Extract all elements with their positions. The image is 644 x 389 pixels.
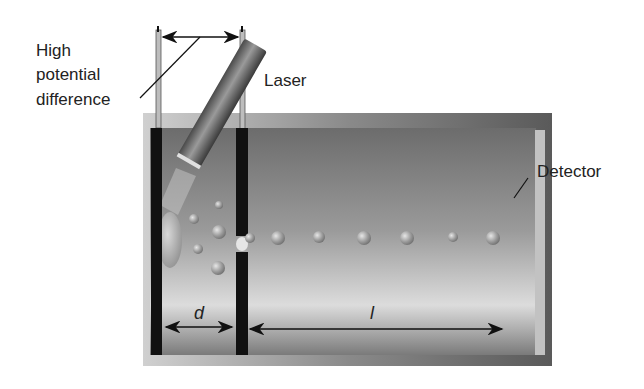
accelerating-electrode-middle	[236, 128, 248, 355]
mass-spectrometer-diagram	[0, 0, 644, 389]
label-high: High	[36, 40, 71, 61]
accelerating-electrode-left	[151, 128, 162, 355]
label-potential: potential	[36, 64, 100, 85]
label-d: d	[194, 303, 204, 324]
label-l: l	[370, 303, 374, 324]
label-difference: difference	[36, 89, 110, 110]
label-laser: Laser	[264, 70, 307, 91]
potential-leader-line	[140, 37, 200, 98]
label-detector: Detector	[537, 161, 601, 182]
